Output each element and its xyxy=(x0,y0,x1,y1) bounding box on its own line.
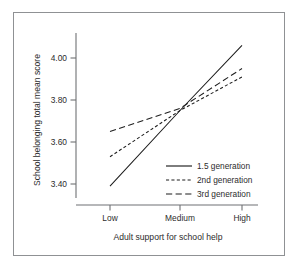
legend-label-3rd-generation: 3rd generation xyxy=(197,189,251,199)
line-chart: 4.00 3.80 3.60 3.40 Low Medium High Adul… xyxy=(0,0,300,269)
series-line-3rd-generation xyxy=(110,69,242,132)
y-tick-label-360: 3.60 xyxy=(51,137,68,147)
legend: 1.5 generation 2nd generation 3rd genera… xyxy=(166,161,253,199)
x-tick-label-high: High xyxy=(233,213,251,223)
y-tick-label-380: 3.80 xyxy=(51,95,68,105)
x-tick-label-medium: Medium xyxy=(165,213,195,223)
legend-label-1-5-generation: 1.5 generation xyxy=(197,161,250,171)
y-tick-label-340: 3.40 xyxy=(51,179,68,189)
series-line-2nd-generation xyxy=(110,77,242,157)
x-axis-title: Adult support for school help xyxy=(114,232,223,242)
y-axis-title: School belonging total mean score xyxy=(32,54,42,186)
legend-label-2nd-generation: 2nd generation xyxy=(197,175,253,185)
x-tick-label-low: Low xyxy=(102,213,118,223)
y-tick-label-400: 4.00 xyxy=(51,53,68,63)
figure-root: 4.00 3.80 3.60 3.40 Low Medium High Adul… xyxy=(0,0,300,269)
